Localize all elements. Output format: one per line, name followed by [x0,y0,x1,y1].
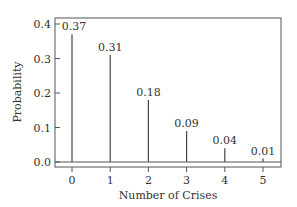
x-tick-label: 1 [107,174,114,187]
y-tick-label: 0.4 [34,18,52,31]
plot-frame [55,18,281,167]
x-tick-label: 0 [69,174,76,187]
y-tick-label: 0.1 [34,122,52,135]
x-tick-label: 4 [221,174,228,187]
data-label: 0.37 [62,20,87,33]
x-tick-label: 2 [145,174,152,187]
y-axis: 0.00.10.20.30.4 [34,18,61,169]
y-tick-label: 0.2 [34,87,52,100]
x-tick-label: 5 [260,174,267,187]
data-label: 0.04 [213,134,238,147]
data-label: 0.09 [174,117,199,130]
data-label: 0.31 [98,41,123,54]
data-label: 0.01 [251,145,276,158]
y-tick-label: 0.0 [34,156,52,169]
stems: 0.370.310.180.090.040.01 [55,20,281,162]
x-tick-label: 3 [183,174,190,187]
x-axis-label: Number of Crises [119,189,218,202]
y-tick-label: 0.3 [34,53,52,66]
y-axis-label: Probability [11,61,24,123]
x-axis: 012345 [69,167,267,187]
probability-stem-chart: 0.00.10.20.30.4 012345 0.370.310.180.090… [0,0,297,207]
data-label: 0.18 [136,86,161,99]
